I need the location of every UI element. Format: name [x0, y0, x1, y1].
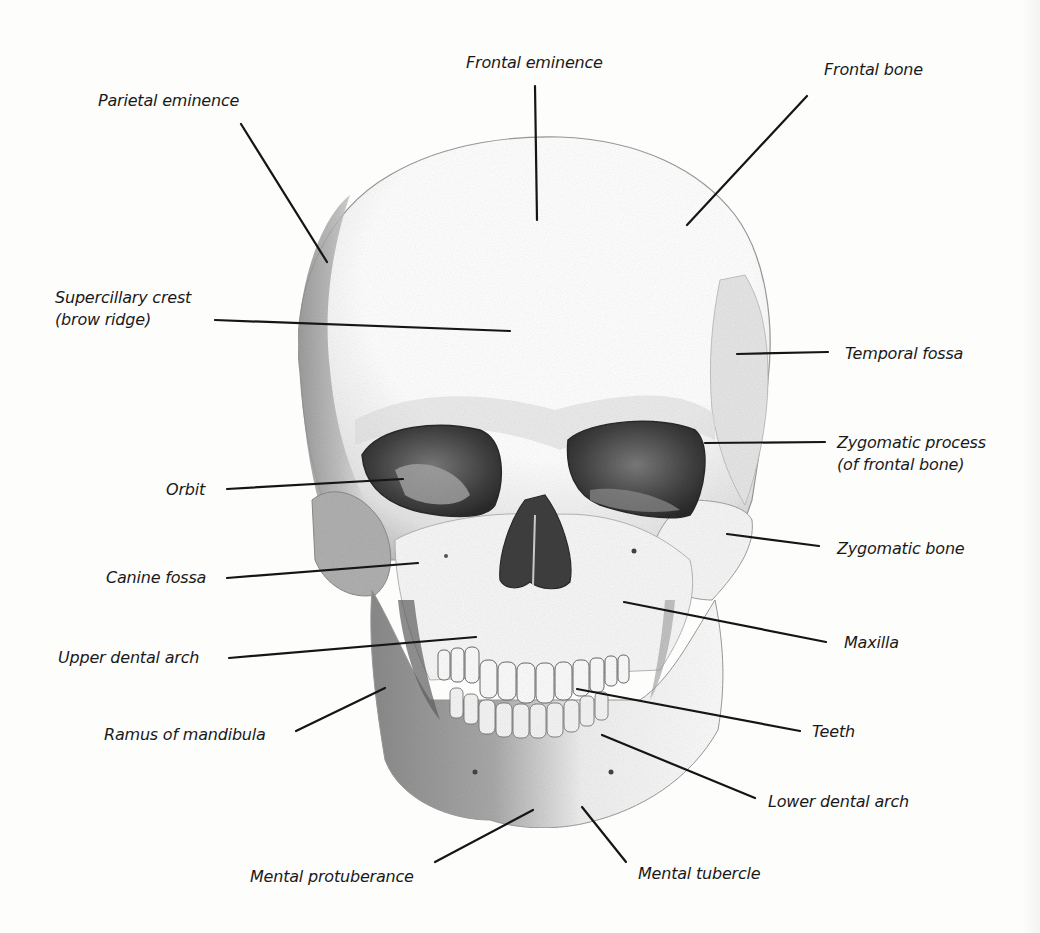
label-lower-dental-arch: Lower dental arch	[768, 791, 909, 813]
scan-edge-shadow	[1022, 0, 1040, 933]
skull-anatomy-diagram: Frontal eminence Frontal bone Parietal e…	[0, 0, 1040, 933]
label-frontal-bone: Frontal bone	[824, 59, 923, 81]
label-supercillary-crest: Supercillary crest (brow ridge)	[55, 287, 191, 331]
leader-line-zygomatic-process	[705, 442, 825, 443]
label-zygomatic-process-line2: (of frontal bone)	[837, 454, 986, 476]
label-zygomatic-process: Zygomatic process (of frontal bone)	[837, 432, 986, 476]
leader-line-ramus-of-mandibula	[296, 688, 385, 731]
label-zygomatic-process-line1: Zygomatic process	[837, 432, 986, 454]
label-mental-protuberance: Mental protuberance	[250, 866, 414, 888]
label-upper-dental-arch: Upper dental arch	[58, 647, 199, 669]
label-parietal-eminence: Parietal eminence	[98, 90, 239, 112]
label-orbit: Orbit	[166, 479, 205, 501]
label-frontal-eminence: Frontal eminence	[466, 52, 603, 74]
label-maxilla: Maxilla	[844, 632, 899, 654]
label-teeth: Teeth	[812, 721, 855, 743]
leader-line-frontal-bone	[687, 96, 807, 225]
label-temporal-fossa: Temporal fossa	[845, 343, 963, 365]
label-zygomatic-bone: Zygomatic bone	[837, 538, 965, 560]
label-canine-fossa: Canine fossa	[106, 567, 206, 589]
label-mental-tubercle: Mental tubercle	[638, 863, 760, 885]
label-supercillary-crest-line2: (brow ridge)	[55, 309, 191, 331]
label-supercillary-crest-line1: Supercillary crest	[55, 287, 191, 309]
leader-line-parietal-eminence	[241, 124, 327, 262]
label-ramus-of-mandibula: Ramus of mandibula	[104, 724, 266, 746]
